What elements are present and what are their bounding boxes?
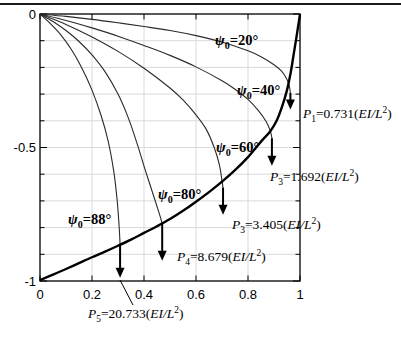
- annotation-psi-80: ψ0=80°: [158, 186, 201, 205]
- annotation-p5-label: P5=20.733(EI/L2): [87, 305, 184, 324]
- x-tick-label: 0.8: [239, 287, 257, 302]
- annotation-p3a-label: P3=1.692(EI/L2): [269, 168, 359, 187]
- arrow-P1-head: [286, 100, 295, 110]
- arrow-P3b-head: [219, 205, 228, 215]
- arrow-P4-head: [158, 251, 167, 261]
- y-tick-label: -0.5: [14, 140, 36, 155]
- arrow-P3a-head: [267, 156, 276, 166]
- annotation-p3b-label: P3=3.405(EI/L2): [231, 216, 321, 235]
- x-tick-label: 0: [36, 287, 43, 302]
- annotation-psi-60: ψ0=60°: [216, 139, 259, 158]
- x-tick-label: 0.4: [135, 287, 153, 302]
- x-tick-label: 1: [296, 287, 303, 302]
- annotation-psi-20: ψ0=20°: [215, 32, 258, 51]
- annotation-psi-88: ψ0=88°: [68, 211, 111, 230]
- p5-label-leader: [120, 280, 133, 305]
- x-tick-label: 0.2: [83, 287, 101, 302]
- annotation-p1-label: P1=0.731(EI/L2): [302, 105, 392, 124]
- figure-page: 00.20.40.60.810-0.5-1ψ0=20°ψ0=40°ψ0=60°ψ…: [0, 0, 401, 339]
- x-tick-label: 0.6: [187, 287, 205, 302]
- y-tick-label: 0: [29, 7, 36, 22]
- arrow-P5-head: [116, 268, 125, 278]
- y-tick-label: -1: [24, 274, 36, 289]
- annotation-psi-40: ψ0=40°: [237, 82, 280, 101]
- curve-psi0-88deg: [40, 14, 120, 244]
- deflection-chart: 00.20.40.60.810-0.5-1ψ0=20°ψ0=40°ψ0=60°ψ…: [0, 0, 401, 339]
- annotation-p4-label: P4=8.679(EI/L2): [176, 248, 266, 267]
